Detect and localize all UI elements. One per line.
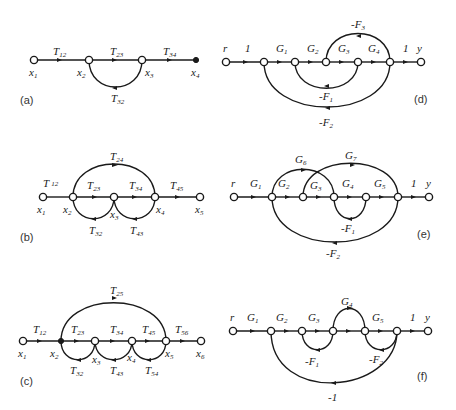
node-label: r (230, 311, 235, 323)
node-x1 (30, 56, 37, 63)
panel-f: r G1 G2 G3 G4 G5 1 y -F1 -F2 -1 (f) (229, 295, 431, 403)
gain-label: T45 (142, 323, 156, 337)
arrow-icon (378, 329, 383, 333)
gain-label: -F2 (369, 353, 383, 367)
arrow-icon (285, 195, 290, 199)
gain-label: -F2 (326, 247, 340, 261)
arrow-icon (74, 339, 79, 343)
gain-label: T25 (110, 284, 124, 298)
node-x2 (69, 193, 76, 200)
node-r (222, 58, 229, 65)
gain-label: T12 (53, 45, 67, 59)
edge-t32 (73, 197, 114, 219)
gain-label: G3 (308, 311, 320, 325)
gain-label: G2 (278, 177, 290, 191)
gain-label: 1 (403, 42, 409, 54)
gain-label: G7 (345, 149, 357, 163)
node (298, 327, 305, 334)
gain-label: G5 (374, 177, 386, 191)
node-label: x4 (190, 66, 200, 80)
node-x3 (110, 193, 117, 200)
gain-label: 1 (410, 311, 416, 323)
arrow-icon (347, 217, 352, 221)
node-x4 (193, 57, 198, 62)
gain-label: G1 (276, 42, 287, 56)
gain-label: G4 (341, 295, 353, 309)
arrow-icon (180, 339, 185, 343)
node-label: x3 (144, 66, 154, 80)
node-label: y (424, 311, 430, 323)
arrow-icon (243, 60, 248, 64)
gain-label: 1 (411, 177, 417, 189)
node-label: x1 (36, 203, 45, 217)
node (299, 193, 306, 200)
edge-t32 (89, 60, 142, 87)
gain-label: T56 (175, 323, 189, 337)
arrow-icon (132, 217, 137, 221)
gain-label: T32 (111, 92, 125, 106)
arrow-icon (175, 195, 180, 199)
arrow-icon (371, 60, 376, 64)
gain-label: 1 (245, 42, 251, 54)
panel-d: r 1 G1 G2 G3 G4 1 y -F3 -F1 -F2 (d) (222, 18, 427, 130)
signal-flow-graphs: T12 T23 T34 T32 x1 x2 x3 x4 (a) T12 T24 … (0, 0, 456, 410)
arrow-icon (411, 195, 416, 199)
node-r (229, 327, 236, 334)
arrow-icon (379, 348, 384, 352)
arrow-icon (145, 339, 150, 343)
node-x2 (58, 338, 63, 343)
panel-label: (d) (414, 93, 427, 105)
node (393, 327, 400, 334)
arrow-icon (250, 329, 255, 333)
node-x4 (151, 193, 158, 200)
node (267, 327, 274, 334)
arrow-icon (410, 329, 415, 333)
arrow-icon (76, 358, 81, 362)
node (291, 58, 298, 65)
node-y (425, 193, 432, 200)
node-x1 (19, 337, 26, 344)
node (354, 58, 361, 65)
arrow-icon (132, 195, 137, 199)
gain-label: G3 (310, 179, 322, 193)
node (330, 193, 337, 200)
gain-label: T34 (110, 323, 124, 337)
node-label: x1 (28, 66, 37, 80)
node (362, 193, 369, 200)
arrow-icon (331, 381, 336, 385)
gain-label: T45 (170, 179, 184, 193)
arrow-icon (316, 195, 321, 199)
gain-label: -1 (328, 391, 337, 403)
arrow-icon (308, 60, 313, 64)
arrow-icon (315, 348, 320, 352)
node-label: y (416, 42, 422, 54)
gain-label: -F3 (351, 18, 365, 32)
panel-label: (e) (417, 228, 430, 240)
panel-e: r G1 G2 G3 G4 G5 1 y G6 G7 -F1 -F2 (e) (230, 149, 432, 261)
node-label: x5 (194, 203, 204, 217)
node (394, 193, 401, 200)
node-y (424, 327, 431, 334)
arrow-icon (339, 60, 344, 64)
panel-label: (c) (20, 375, 33, 387)
gain-label: G1 (247, 311, 258, 325)
gain-label: T24 (110, 150, 124, 164)
gain-label: -F1 (305, 355, 319, 369)
node (322, 58, 329, 65)
node-label: x2 (76, 66, 86, 80)
gain-label: -F1 (341, 222, 355, 236)
gain-label: G6 (295, 153, 307, 167)
node-x3 (91, 337, 98, 344)
node-x6 (197, 337, 204, 344)
node-r (230, 193, 237, 200)
node (386, 58, 393, 65)
edge-f1 (334, 197, 366, 219)
node-label: x2 (62, 203, 72, 217)
edge-g4 (333, 309, 365, 332)
node-x1 (39, 193, 46, 200)
gain-label: G1 (250, 177, 261, 191)
gain-label: -F2 (319, 116, 333, 130)
edge-f1 (302, 331, 333, 350)
panel-label: (a) (20, 94, 33, 106)
arrow-icon (379, 195, 384, 199)
